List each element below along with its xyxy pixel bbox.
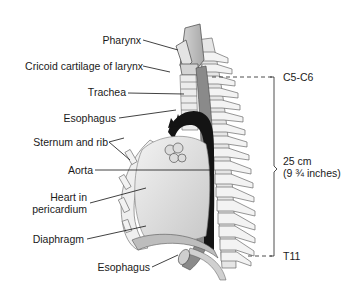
label-length-cm: 25 cm	[283, 155, 312, 167]
label-diaphragm: Diaphragm	[33, 233, 84, 245]
label-aorta: Aorta	[68, 164, 93, 176]
label-t11: T11	[283, 250, 300, 262]
label-c5-c6: C5-C6	[283, 71, 313, 83]
esophagus-diagram: Pharynx Cricoid cartilage of larynx Trac…	[0, 0, 359, 288]
label-trachea: Trachea	[88, 86, 126, 98]
label-cricoid-cartilage: Cricoid cartilage of larynx	[25, 60, 143, 72]
label-heart-line1: Heart in	[50, 191, 87, 203]
label-sternum-and-rib: Sternum and rib	[33, 136, 108, 148]
label-length-inches: (9 ¾ inches)	[283, 167, 341, 179]
label-pharynx: Pharynx	[102, 34, 141, 46]
label-heart-line2: pericardium	[32, 203, 87, 215]
label-esophagus-upper: Esophagus	[63, 112, 116, 124]
label-esophagus-lower: Esophagus	[97, 261, 150, 273]
